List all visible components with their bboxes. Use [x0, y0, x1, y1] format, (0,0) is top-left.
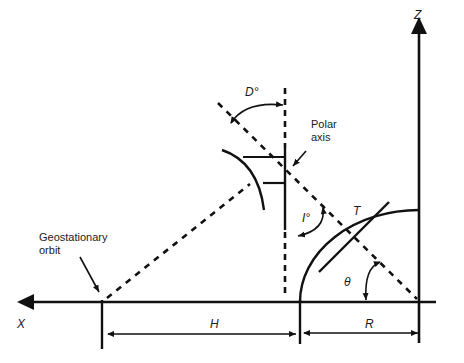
- earth-arc: [300, 210, 419, 302]
- polar-axis-pointer: [293, 151, 306, 166]
- polar-axis-label: Polar axis: [311, 118, 337, 144]
- inclination-label: I°: [302, 212, 310, 225]
- diagram-canvas: [0, 0, 464, 363]
- declination-arc: [231, 104, 283, 123]
- theta-arc: [366, 262, 380, 300]
- radius-label: R: [365, 318, 374, 331]
- geostationary-sightline: [107, 184, 250, 298]
- x-axis: [17, 294, 436, 310]
- x-axis-arrow-icon: [17, 294, 34, 310]
- tangent-label: T: [353, 205, 360, 218]
- satellite-arc: [222, 150, 264, 210]
- height-label: H: [210, 318, 219, 331]
- declination-label: D°: [245, 86, 258, 99]
- x-axis-label: X: [17, 318, 25, 331]
- z-axis: [411, 17, 427, 343]
- z-axis-label: Z: [414, 9, 421, 22]
- geostationary-label: Geostationary orbit: [39, 231, 107, 257]
- theta-label: θ: [344, 276, 351, 289]
- geostationary-pointer: [80, 257, 99, 292]
